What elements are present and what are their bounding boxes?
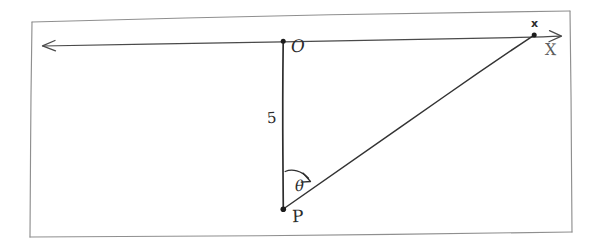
point-dot-origin [281, 39, 286, 44]
point-dot-p [281, 206, 287, 212]
label-point-p: P [292, 208, 304, 225]
frame-right-edge [570, 11, 572, 232]
frame-bottom-edge [30, 232, 572, 237]
frame-left-edge [30, 22, 32, 237]
geometry-diagram: O 5 θ P x X [0, 0, 600, 249]
label-axis-x: X [545, 42, 557, 58]
label-segment-length: 5 [266, 111, 277, 127]
label-origin: O [291, 38, 306, 56]
label-angle-theta: θ [295, 179, 305, 194]
point-dot-x [532, 33, 537, 38]
segment-op [283, 42, 284, 210]
segment-px [283, 35, 534, 209]
frame-top-edge [32, 11, 570, 22]
label-point-x: x [531, 18, 538, 29]
